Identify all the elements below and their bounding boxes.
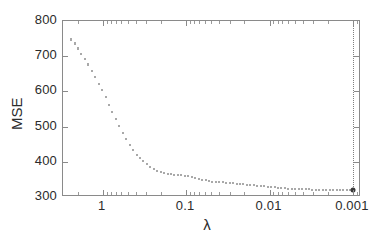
x-axis-minor-tick — [121, 21, 122, 24]
data-point — [243, 183, 244, 185]
x-axis-minor-tick — [194, 192, 195, 195]
data-point — [322, 189, 323, 191]
data-point — [88, 63, 89, 65]
x-axis-minor-tick — [303, 21, 304, 24]
x-axis-minor-tick — [128, 192, 129, 195]
data-point — [105, 96, 106, 98]
data-point — [188, 175, 189, 177]
data-point — [305, 188, 306, 190]
data-point — [346, 189, 347, 191]
data-point — [229, 182, 230, 184]
y-axis-tick-label: 800 — [35, 13, 57, 26]
data-point — [309, 188, 310, 190]
x-axis-minor-tick — [199, 192, 200, 195]
x-axis-minor-tick — [146, 21, 147, 24]
x-axis-minor-tick — [303, 192, 304, 195]
data-point — [122, 132, 123, 134]
x-axis-minor-tick — [278, 21, 279, 24]
x-axis-minor-tick — [282, 21, 283, 24]
data-point — [202, 179, 203, 181]
y-axis-tick-mark — [63, 127, 68, 128]
data-point — [112, 111, 113, 113]
data-point — [312, 189, 313, 191]
x-axis-minor-tick — [278, 192, 279, 195]
data-point — [246, 184, 247, 186]
x-axis-minor-tick — [313, 21, 314, 24]
data-point — [264, 185, 265, 187]
x-axis-minor-tick — [273, 192, 274, 195]
data-point — [212, 181, 213, 183]
x-axis-tick-mark — [186, 21, 187, 26]
x-axis-minor-tick — [273, 21, 274, 24]
mse-vs-lambda-chart: MSE 800700600500400300 10.10.010.001 λ — [0, 0, 382, 248]
data-point — [288, 188, 289, 190]
x-axis-minor-tick — [230, 192, 231, 195]
x-axis-minor-tick — [205, 192, 206, 195]
data-point — [222, 181, 223, 183]
x-axis-minor-tick — [211, 192, 212, 195]
data-point — [336, 189, 337, 191]
y-axis-tick-mark — [354, 56, 359, 57]
x-axis-minor-tick — [194, 21, 195, 24]
data-point — [198, 178, 199, 180]
x-axis-minor-tick — [282, 192, 283, 195]
data-point — [119, 125, 120, 127]
x-axis-minor-tick — [219, 192, 220, 195]
plot-area — [62, 20, 360, 196]
data-point — [191, 176, 192, 178]
x-axis-tick-mark — [186, 190, 187, 195]
x-axis-tick-label: 1 — [98, 198, 105, 213]
data-point — [295, 188, 296, 190]
x-axis-minor-tick — [211, 21, 212, 24]
x-axis-minor-tick — [146, 192, 147, 195]
x-axis-minor-tick — [199, 21, 200, 24]
data-point — [271, 186, 272, 188]
data-point — [319, 189, 320, 191]
data-point — [126, 138, 127, 140]
data-point — [298, 188, 299, 190]
data-point — [164, 172, 165, 174]
y-axis-tick-label: 400 — [35, 154, 57, 167]
data-point — [160, 171, 161, 173]
x-axis-minor-tick — [190, 21, 191, 24]
data-point — [143, 160, 144, 162]
x-axis-minor-tick — [116, 192, 117, 195]
data-point — [329, 189, 330, 191]
x-axis-tick-mark — [353, 21, 354, 26]
x-axis-minor-tick — [357, 192, 358, 195]
data-point — [277, 187, 278, 189]
x-axis-minor-tick — [161, 21, 162, 24]
x-axis-minor-tick — [121, 192, 122, 195]
data-point — [167, 173, 168, 175]
data-point — [153, 168, 154, 170]
x-axis-minor-tick — [128, 21, 129, 24]
x-axis-minor-tick — [107, 21, 108, 24]
data-point — [157, 170, 158, 172]
data-point — [195, 177, 196, 179]
data-point — [274, 186, 275, 188]
x-axis-minor-tick — [78, 21, 79, 24]
x-axis-tick-mark — [103, 190, 104, 195]
data-point — [181, 174, 182, 176]
x-axis-tick-label: 0.001 — [335, 198, 369, 213]
data-point — [140, 157, 141, 159]
data-point — [84, 58, 85, 60]
data-point — [146, 163, 147, 165]
data-point — [215, 181, 216, 183]
x-axis-minor-tick — [295, 192, 296, 195]
data-point — [115, 118, 116, 120]
x-axis-minor-tick — [116, 21, 117, 24]
data-point — [133, 149, 134, 151]
x-axis-minor-tick — [111, 192, 112, 195]
x-axis-minor-tick — [78, 192, 79, 195]
data-point — [315, 189, 316, 191]
y-axis-tick-mark — [63, 91, 68, 92]
x-axis-minor-tick — [219, 21, 220, 24]
data-point — [209, 180, 210, 182]
data-point — [184, 175, 185, 177]
x-axis-minor-tick — [190, 192, 191, 195]
y-axis-tick-label: 500 — [35, 119, 57, 132]
data-point — [226, 182, 227, 184]
data-point — [129, 144, 130, 146]
x-axis-minor-tick — [313, 192, 314, 195]
